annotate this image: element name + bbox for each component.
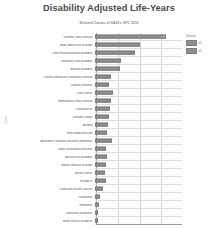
bar[interactable] [95, 98, 111, 103]
bar-track [95, 185, 182, 193]
bar-row-label: Ischemic stroke [20, 116, 95, 119]
bar-row-label: Poisonings [20, 196, 95, 199]
bar[interactable] [95, 138, 112, 143]
bar-row: Hypertensive heart disease [20, 97, 182, 105]
bar-row-label: Bipolar affective disorder [20, 164, 95, 167]
bar[interactable] [95, 74, 111, 79]
bar[interactable] [95, 162, 106, 167]
bar-row: Congenital anomalies [20, 209, 182, 217]
bar-rows: Ischemic heart disease82Major depressive… [20, 33, 182, 225]
bar-track [95, 105, 182, 113]
bar-row: Diabetes mellitus [20, 81, 182, 89]
bar-track [95, 97, 182, 105]
bar[interactable] [95, 154, 107, 159]
bar-row: Breast cancer [20, 169, 182, 177]
bar-row-label: Other musculoskeletal disorders [20, 52, 95, 55]
bar-track [95, 201, 182, 209]
bar[interactable] [95, 210, 98, 215]
bar[interactable] [95, 114, 109, 119]
bar-row: Hormones [20, 201, 182, 209]
bar-row-label: Major depressive disorder [20, 44, 95, 47]
bar-track [95, 113, 182, 121]
bar[interactable] [95, 194, 100, 199]
y-axis-title: Cause [5, 100, 8, 140]
bar-track: 82 [95, 33, 182, 41]
bar-row-label: Hypertensive heart disease [20, 100, 95, 103]
bar-row-label: Lower respiratory infections [20, 148, 95, 151]
legend-label: all [199, 50, 202, 53]
bar-row-label: Lung cancer [20, 92, 95, 95]
bar[interactable] [95, 66, 120, 71]
bar-row-label: Breast cancer [20, 172, 95, 175]
bar-row-label: Motor vehicle accidents [20, 220, 95, 223]
bar[interactable] [95, 122, 108, 127]
bar[interactable] [95, 178, 106, 183]
chart-subtitle: Selected Causes of DALYs, NYC 2015 [0, 21, 218, 25]
bar[interactable] [95, 58, 121, 63]
bar[interactable] [95, 90, 113, 95]
bar-row: Colon and rectum cancers [20, 185, 182, 193]
bar-track [95, 193, 182, 201]
bar[interactable] [95, 82, 109, 87]
bar-row-label: Alzheimer's disease and other dementias [20, 140, 95, 143]
bar-track [95, 89, 182, 97]
bar-track [95, 177, 182, 185]
legend: Version allall [186, 34, 218, 56]
bar-row-label: Alcohol use disorders [20, 156, 95, 159]
bar[interactable] [95, 186, 103, 191]
bar-track [95, 81, 182, 89]
bar-row-label: Hormones [20, 204, 95, 207]
legend-item[interactable]: all [186, 48, 218, 54]
bar-row-label: HIV/AIDS [20, 180, 95, 183]
legend-swatch [186, 48, 197, 54]
bar[interactable] [95, 42, 140, 47]
legend-label: all [199, 42, 202, 45]
bar[interactable] [95, 146, 106, 151]
bar-track [95, 209, 182, 217]
bar-track [95, 57, 182, 65]
bar-track [95, 129, 182, 137]
bar-row-label: Congenital anomalies [20, 212, 95, 215]
bar-row: Alcohol use disorders [20, 153, 182, 161]
page-title: Disability Adjusted Life-Years [0, 3, 218, 13]
x-axis-line [96, 224, 182, 225]
bar-row: HIV/AIDS [20, 177, 182, 185]
bar-track [95, 153, 182, 161]
bar-row: Poisonings [20, 193, 182, 201]
bar-row: Ischemic stroke [20, 113, 182, 121]
bar-row: Ischemic heart disease82 [20, 33, 182, 41]
bar[interactable] [95, 130, 107, 135]
bar-row-label: Ischemic heart disease [20, 36, 95, 39]
bar-chart: Ischemic heart disease82Major depressive… [20, 33, 182, 225]
bar-track [95, 73, 182, 81]
bar-value-label: 82 [162, 35, 165, 38]
bar-row-label: High blood pressure [20, 132, 95, 135]
bar-row: Anxiety disorders [20, 65, 182, 73]
bar[interactable]: 82 [95, 34, 166, 39]
bar[interactable] [95, 106, 110, 111]
bar-row-label: Colon and rectum cancers [20, 188, 95, 191]
bar-row: Chronic obstructive pulmonary disease [20, 73, 182, 81]
bar-row: Substance use disorders [20, 57, 182, 65]
bar-row: Major depressive disorder [20, 41, 182, 49]
bar-row-label: Diabetes mellitus [20, 84, 95, 87]
bar-track [95, 145, 182, 153]
bar-track [95, 41, 182, 49]
chart-page: Disability Adjusted Life-Years Selected … [0, 0, 218, 229]
legend-title: Version [186, 34, 218, 38]
bar-row-label: Chronic obstructive pulmonary disease [20, 76, 95, 79]
bar-row: High blood pressure [20, 129, 182, 137]
bar-track [95, 161, 182, 169]
bar-row-label: Asthma [20, 124, 95, 127]
bar[interactable] [95, 170, 105, 175]
bar[interactable] [95, 218, 98, 223]
bar-row: Lung cancer [20, 89, 182, 97]
legend-items: allall [186, 40, 218, 54]
legend-item[interactable]: all [186, 40, 218, 46]
bar-track [95, 169, 182, 177]
bar[interactable] [95, 202, 99, 207]
bar-track [95, 121, 182, 129]
bar-track [95, 65, 182, 73]
bar-row: Osteoarthritis [20, 105, 182, 113]
bar[interactable] [95, 50, 135, 55]
